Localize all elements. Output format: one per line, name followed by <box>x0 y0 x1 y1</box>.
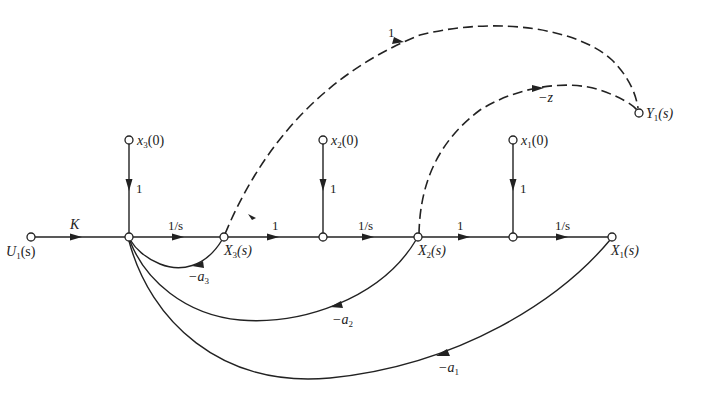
label-y1: Y1(s) <box>646 106 673 123</box>
gain-a3: −a3 <box>188 269 209 286</box>
edge-x3-n1-feedback-a3 <box>131 240 222 268</box>
label-x1: X1(s) <box>610 243 639 260</box>
node-y1 <box>635 109 643 117</box>
gain-ic1: 1 <box>520 181 527 196</box>
node-x1 <box>608 233 616 241</box>
arrow-ic2-icon <box>320 179 327 191</box>
arrow-x3n2-icon <box>267 234 279 241</box>
gain-a2: −a2 <box>332 312 353 329</box>
gain-x2-y1: −z <box>538 90 553 105</box>
arrow-x2n3-icon <box>458 234 470 241</box>
node-x3_0 <box>125 136 133 144</box>
node-n3 <box>509 233 517 241</box>
arrow-int1-icon <box>556 234 568 241</box>
node-x1_0 <box>509 136 517 144</box>
arrow-a2-icon <box>330 301 343 308</box>
gain-int3: 1/s <box>168 218 183 233</box>
edge-x2-y1-dashed <box>419 85 637 234</box>
gain-x3-y1: 1 <box>388 25 395 40</box>
node-u1 <box>27 233 35 241</box>
label-x3_0: x3(0) <box>136 133 164 150</box>
gain-x2-n3: 1 <box>457 218 464 233</box>
gain-int2: 1/s <box>358 218 373 233</box>
arrow-int2-icon <box>362 234 374 241</box>
arrow-ic3-icon <box>126 179 133 191</box>
gain-k: K <box>69 217 80 232</box>
gain-a1: −a1 <box>438 360 459 377</box>
signal-flow-graph: U1(s) X3(s) X2(s) X1(s) Y1(s) x3(0) x2(0… <box>0 0 712 398</box>
label-x2_0: x2(0) <box>330 133 358 150</box>
ink-mark <box>248 214 256 220</box>
node-x2_0 <box>319 136 327 144</box>
label-x3: X3(s) <box>223 243 252 260</box>
gain-int1: 1/s <box>555 218 570 233</box>
arrow-int3-icon <box>172 234 184 241</box>
node-x2 <box>414 233 422 241</box>
edge-x3-y1-dashed <box>225 26 638 234</box>
arrow-ic1-icon <box>510 179 517 191</box>
edge-x2-n1-feedback-a2 <box>130 240 416 321</box>
node-n1 <box>125 233 133 241</box>
gain-x3-n2: 1 <box>272 218 279 233</box>
node-n2 <box>319 233 327 241</box>
gain-ic2: 1 <box>330 181 337 196</box>
gain-ic3: 1 <box>136 181 143 196</box>
label-x1_0: x1(0) <box>520 133 548 150</box>
label-x2: X2(s) <box>417 243 446 260</box>
node-x3 <box>220 233 228 241</box>
label-u1: U1(s) <box>6 244 36 261</box>
arrow-k-icon <box>70 234 82 241</box>
